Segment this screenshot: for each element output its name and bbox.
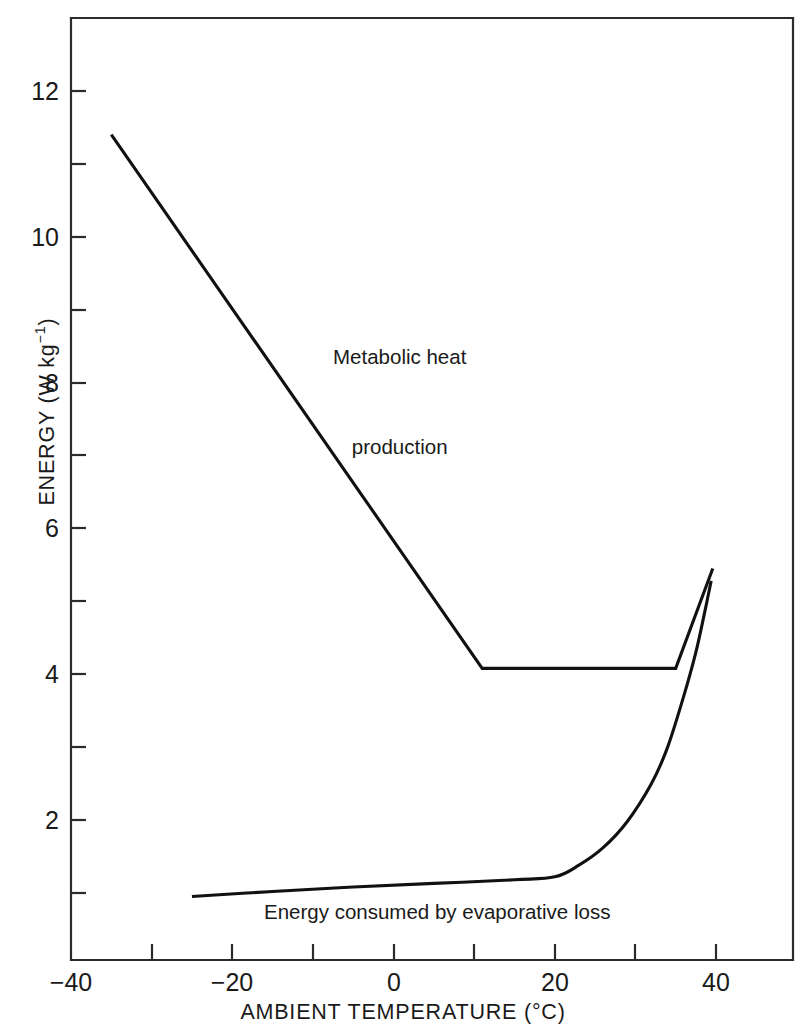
y-tick-label-2: 2: [45, 806, 59, 834]
annotation-evaporative-loss: Energy consumed by evaporative loss: [264, 838, 610, 987]
x-tick-label-minus40: −40: [50, 968, 92, 996]
annotation-metabolic-line-2: production: [333, 432, 466, 462]
y-axis-title-main: ENERGY (W kg: [35, 343, 59, 505]
y-axis-title-tail: ): [35, 318, 59, 326]
x-axis-title-unit: °C): [532, 1000, 566, 1024]
annotation-metabolic-line-1: Metabolic heat: [333, 342, 466, 372]
annotation-metabolic-heat-production: Metabolic heat production: [333, 283, 466, 521]
y-tick-label-4: 4: [45, 660, 59, 688]
y-axis-title: ENERGY (W kg−1): [32, 282, 59, 542]
y-tick-label-12: 12: [31, 77, 59, 105]
y-axis-title-exponent: −1: [32, 326, 48, 344]
x-tick-label-40: 40: [702, 968, 730, 996]
x-axis-title: AMBIENT TEMPERATURE (°C): [0, 1000, 806, 1025]
x-axis-title-main: AMBIENT TEMPERATURE (: [240, 1000, 532, 1024]
chart-figure: 12 10 8 6 4 2 −40 −20 0 20 40 Metabolic …: [0, 0, 806, 1035]
annotation-evaporative-line-1: Energy consumed by evaporative loss: [264, 897, 610, 927]
x-tick-label-minus20: −20: [211, 968, 253, 996]
y-tick-label-10: 10: [31, 223, 59, 251]
